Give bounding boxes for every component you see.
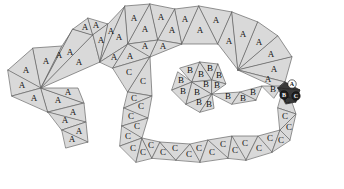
marker-circle-icon bbox=[288, 80, 296, 88]
corner-marker-a: A bbox=[288, 80, 296, 88]
corner-marker-b: B bbox=[280, 91, 288, 99]
marker-circle-icon bbox=[280, 91, 288, 99]
figure-root: AAAAAAAAAAAAAAAAAAAAAAAAAAAAAAAAAAABBBBB… bbox=[0, 0, 344, 189]
corner-marker-c: C bbox=[292, 92, 300, 100]
triangulated-mesh-diagram: AAAAAAAAAAAAAAAAAAAAAAAAAAAAAAAAAAABBBBB… bbox=[0, 0, 344, 189]
marker-circle-icon bbox=[292, 92, 300, 100]
mesh-faces-layer bbox=[8, 4, 296, 162]
